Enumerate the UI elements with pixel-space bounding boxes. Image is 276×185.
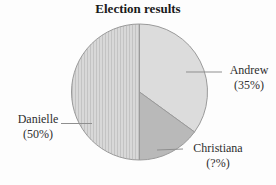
slice-label-christiana-name: Christiana xyxy=(181,141,255,156)
pie-slice-danielle xyxy=(71,24,139,160)
slice-label-andrew: Andrew (35%) xyxy=(221,63,276,93)
slice-label-andrew-name: Andrew xyxy=(221,63,276,78)
slice-label-danielle-percent: (50%) xyxy=(12,127,64,142)
slice-label-danielle-name: Danielle xyxy=(12,112,64,127)
slice-label-christiana-percent: (?%) xyxy=(181,156,255,171)
slice-label-andrew-percent: (35%) xyxy=(221,78,276,93)
slice-label-christiana: Christiana (?%) xyxy=(181,141,255,171)
slice-label-danielle: Danielle (50%) xyxy=(12,112,64,142)
election-pie-figure: Election results Andrew (35%) Christiana… xyxy=(0,0,276,185)
